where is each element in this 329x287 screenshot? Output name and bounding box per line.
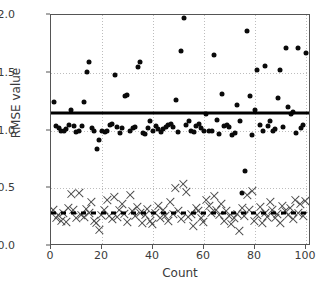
- data-point-dot: [212, 53, 217, 58]
- data-point-dot: [133, 125, 138, 130]
- data-point-dot: [245, 29, 250, 34]
- x-tick-mark: [254, 245, 255, 249]
- data-point-dot: [250, 133, 255, 138]
- data-point-dot: [280, 125, 285, 130]
- data-point-dot: [176, 129, 181, 134]
- data-point-dot: [258, 122, 263, 127]
- data-point-dot: [171, 125, 176, 130]
- data-point-dot: [191, 129, 196, 134]
- data-point-dot: [94, 146, 99, 151]
- data-point-dot: [92, 128, 97, 133]
- data-point-dot: [235, 103, 240, 108]
- x-tick-label: 40: [145, 249, 159, 262]
- x-tick-mark: [203, 245, 204, 249]
- data-point-dot: [112, 73, 117, 78]
- data-point-dot: [105, 128, 110, 133]
- x-tick-label: 80: [247, 249, 261, 262]
- y-tick-mark: [46, 187, 50, 188]
- data-point-dot: [125, 92, 130, 97]
- data-point-dot: [179, 48, 184, 53]
- upper-mean-line: [51, 112, 309, 115]
- gridline-horizontal: [51, 73, 309, 74]
- data-point-x: [247, 185, 258, 196]
- data-point-dot: [120, 126, 125, 131]
- data-point-dot: [255, 68, 260, 73]
- y-tick-label: 1.0: [0, 123, 15, 136]
- x-tick-label: 20: [94, 249, 108, 262]
- y-tick-mark: [46, 71, 50, 72]
- data-point-x: [94, 224, 105, 235]
- data-point-dot: [148, 119, 153, 124]
- data-point-dot: [293, 130, 298, 135]
- x-tick-mark: [305, 245, 306, 249]
- data-point-dot: [247, 93, 252, 98]
- y-axis-label: RMSE value: [9, 43, 23, 163]
- data-point-dot: [268, 119, 273, 124]
- y-tick-mark: [46, 14, 50, 15]
- data-point-x: [125, 190, 136, 201]
- data-point-x: [86, 197, 97, 208]
- data-point-dot: [77, 128, 82, 133]
- data-point-dot: [71, 123, 76, 128]
- x-tick-label: 100: [294, 249, 315, 262]
- data-point-x: [234, 225, 245, 236]
- data-point-dot: [275, 96, 280, 101]
- data-point-dot: [64, 127, 69, 132]
- data-point-x: [300, 195, 310, 206]
- data-point-dot: [301, 122, 306, 127]
- data-point-dot: [260, 128, 265, 133]
- data-point-dot: [173, 98, 178, 103]
- data-point-dot: [143, 131, 148, 136]
- scatter-plot-figure: RMSE value Count 0.00.51.01.52.002040608…: [0, 0, 329, 287]
- data-point-dot: [278, 68, 283, 73]
- y-tick-label: 2.0: [0, 8, 15, 21]
- data-point-dot: [283, 46, 288, 51]
- data-point-dot: [87, 60, 92, 65]
- data-point-dot: [217, 131, 222, 136]
- data-point-dot: [237, 119, 242, 124]
- data-point-dot: [51, 99, 56, 104]
- x-tick-label: 0: [47, 249, 54, 262]
- data-point-dot: [286, 105, 291, 110]
- data-point-dot: [82, 99, 87, 104]
- data-point-dot: [138, 60, 143, 65]
- data-point-dot: [79, 123, 84, 128]
- data-point-dot: [303, 51, 308, 56]
- x-tick-mark: [50, 245, 51, 249]
- data-point-dot: [97, 137, 102, 142]
- y-tick-mark: [46, 129, 50, 130]
- data-point-dot: [209, 128, 214, 133]
- x-tick-mark: [101, 245, 102, 249]
- lower-mean-line: [51, 211, 309, 214]
- data-point-dot: [219, 91, 224, 96]
- data-point-dot: [135, 64, 140, 69]
- x-axis-label: Count: [50, 266, 310, 280]
- data-point-dot: [242, 168, 247, 173]
- data-point-x: [181, 186, 192, 197]
- data-point-dot: [296, 46, 301, 51]
- data-point-dot: [265, 123, 270, 128]
- data-point-dot: [214, 118, 219, 123]
- data-point-dot: [181, 16, 186, 21]
- data-point-dot: [232, 130, 237, 135]
- plot-area: [50, 14, 310, 245]
- data-point-dot: [263, 63, 268, 68]
- data-point-dot: [273, 127, 278, 132]
- y-tick-label: 0.0: [0, 239, 15, 252]
- y-tick-label: 1.5: [0, 65, 15, 78]
- data-point-dot: [186, 119, 191, 124]
- x-tick-mark: [152, 245, 153, 249]
- data-point-dot: [117, 130, 122, 135]
- y-tick-label: 0.5: [0, 181, 15, 194]
- data-point-dot: [227, 125, 232, 130]
- x-tick-label: 60: [196, 249, 210, 262]
- data-point-x: [74, 187, 85, 198]
- data-point-dot: [84, 69, 89, 74]
